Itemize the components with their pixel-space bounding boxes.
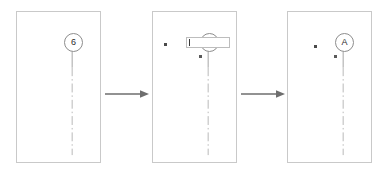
leader-line-3 xyxy=(288,12,371,162)
panel-1-content: 6 xyxy=(17,12,100,162)
panel-step-3[interactable]: A xyxy=(287,11,372,163)
leader-line-1 xyxy=(17,12,100,162)
panel-2-content: 6 xyxy=(153,12,236,162)
balloon-label-1: 6 xyxy=(71,38,76,47)
text-caret-icon xyxy=(189,39,190,46)
diagram-canvas: 6 6 xyxy=(0,0,388,173)
grip-handle-icon[interactable] xyxy=(314,45,317,48)
grip-handle-icon[interactable] xyxy=(164,43,167,46)
attach-point-icon xyxy=(334,55,337,58)
balloon-tag-3[interactable]: A xyxy=(335,33,354,52)
leader-line-2 xyxy=(153,12,236,162)
balloon-tag-1[interactable]: 6 xyxy=(64,33,83,52)
attach-point-icon xyxy=(199,55,202,58)
flow-arrow-1 xyxy=(104,88,150,100)
balloon-label-3: A xyxy=(341,38,347,47)
panel-3-content: A xyxy=(288,12,371,162)
panel-step-1[interactable]: 6 xyxy=(16,11,101,163)
flow-arrow-2 xyxy=(240,88,286,100)
balloon-text-edit-field[interactable] xyxy=(186,37,230,48)
panel-step-2[interactable]: 6 xyxy=(152,11,237,163)
